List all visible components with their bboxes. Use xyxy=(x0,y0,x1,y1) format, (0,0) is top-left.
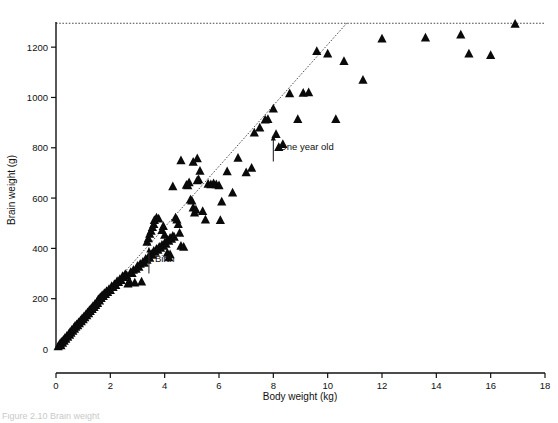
data-point-marker xyxy=(377,34,386,43)
data-markers-group xyxy=(54,19,520,350)
figure-container: 024681012141618 020040060080010001200 Bi… xyxy=(0,0,558,423)
data-point-marker xyxy=(137,277,146,286)
data-point-marker xyxy=(247,163,256,172)
data-point-marker xyxy=(486,50,495,59)
data-point-marker xyxy=(228,188,237,197)
data-point-marker xyxy=(312,46,321,55)
figure-caption: Figure 2.10 Brain weight xyxy=(2,413,100,421)
y-axis-title: Brain weight (g) xyxy=(6,155,17,225)
y-axis-tick-label: 0 xyxy=(43,344,48,355)
annotations-group: BirthOne year old xyxy=(146,136,333,274)
data-point-marker xyxy=(217,197,226,206)
x-axis-tick-label: 12 xyxy=(377,380,388,391)
data-point-marker xyxy=(464,49,473,58)
x-axis-tick-label: 4 xyxy=(162,380,167,391)
data-point-marker xyxy=(339,56,348,65)
x-axis-tick-label: 14 xyxy=(431,380,442,391)
data-point-marker xyxy=(195,166,204,175)
data-point-marker xyxy=(159,221,168,230)
y-axis-tick-label: 600 xyxy=(32,193,48,204)
data-point-marker xyxy=(194,175,203,184)
data-point-marker xyxy=(193,153,202,162)
x-axis-tick-label: 2 xyxy=(108,380,113,391)
data-point-marker xyxy=(168,182,177,191)
x-axis-tick-label: 16 xyxy=(485,380,496,391)
data-point-marker xyxy=(293,114,302,123)
data-point-marker xyxy=(223,167,232,176)
data-point-marker xyxy=(358,75,367,84)
data-point-marker xyxy=(216,215,225,224)
data-point-marker xyxy=(323,49,332,58)
y-axis-tick-label: 400 xyxy=(32,243,48,254)
data-point-marker xyxy=(269,104,278,113)
y-axis-tick-label: 1200 xyxy=(27,42,48,53)
x-axis-tick-label: 10 xyxy=(322,380,333,391)
data-point-marker xyxy=(331,114,340,123)
x-axis-title: Body weight (kg) xyxy=(263,391,337,402)
data-point-marker xyxy=(285,89,294,98)
data-point-marker xyxy=(198,206,207,215)
scatter-plot: 024681012141618 020040060080010001200 Bi… xyxy=(0,0,558,423)
annotation-label: One year old xyxy=(279,141,333,152)
data-point-marker xyxy=(201,215,210,224)
data-point-marker xyxy=(176,155,185,164)
data-point-marker xyxy=(456,30,465,39)
data-point-marker xyxy=(304,88,313,97)
x-axis-group: 024681012141618 xyxy=(53,373,550,391)
annotation-label: Birth xyxy=(155,253,175,264)
data-point-marker xyxy=(233,153,242,162)
x-axis-tick-label: 0 xyxy=(53,380,58,391)
data-point-marker xyxy=(175,228,184,237)
y-axis-tick-label: 800 xyxy=(32,142,48,153)
y-axis-group: 020040060080010001200 xyxy=(27,22,56,355)
x-axis-tick-label: 18 xyxy=(540,380,551,391)
y-axis-tick-label: 200 xyxy=(32,293,48,304)
x-axis-tick-label: 6 xyxy=(216,380,221,391)
data-point-marker xyxy=(421,33,430,42)
figure-caption-strip: Figure 2.10 Brain weight xyxy=(0,413,558,423)
x-axis-tick-label: 8 xyxy=(271,380,276,391)
y-axis-tick-label: 1000 xyxy=(27,92,48,103)
